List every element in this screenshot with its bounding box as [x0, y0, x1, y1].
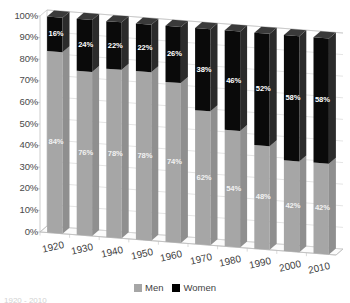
data-label-women-1970: 38% [197, 66, 212, 74]
data-label-women-1950: 22% [137, 44, 152, 52]
legend-swatch-men-icon [134, 284, 142, 292]
legend-item-men[interactable]: Men [134, 283, 163, 293]
bar-1970 [195, 22, 217, 245]
data-label-women-2000: 58% [285, 94, 300, 102]
bar-1980 [225, 24, 247, 247]
legend-swatch-women-icon [172, 284, 180, 292]
bar-2000 [284, 29, 306, 252]
legend-item-women[interactable]: Women [172, 283, 216, 293]
y-axis-tick-20pct: 20% [2, 183, 38, 193]
data-label-women-1930: 24% [78, 41, 93, 49]
y-axis-tick-100pct: 100% [2, 11, 38, 21]
data-label-men-2010: 42% [315, 204, 330, 212]
data-label-women-1990: 52% [256, 85, 271, 93]
y-axis-tick-0pct: 0% [2, 227, 38, 237]
chart-legend: MenWomen [0, 281, 350, 295]
bar-1920 [47, 11, 69, 234]
chart-container: 0%10%20%30%40%50%60%70%80%90%100% 192019… [0, 0, 350, 303]
data-label-men-1990: 48% [256, 193, 271, 201]
y-axis-tick-80pct: 80% [2, 54, 38, 64]
data-label-men-1940: 78% [108, 150, 123, 158]
legend-label: Men [145, 283, 163, 293]
y-axis-tick-30pct: 30% [2, 162, 38, 172]
data-label-men-1930: 76% [78, 149, 93, 157]
data-label-men-1980: 54% [226, 185, 241, 193]
data-label-men-1950: 78% [137, 152, 152, 160]
y-axis-tick-50pct: 50% [2, 119, 38, 129]
data-label-men-1960: 74% [167, 158, 182, 166]
bar-1990 [254, 27, 276, 250]
data-label-women-2010: 58% [315, 96, 330, 104]
y-axis: 0%10%20%30%40%50%60%70%80%90%100% [0, 0, 38, 303]
bar-2010 [314, 31, 336, 254]
data-label-men-1970: 62% [197, 174, 212, 182]
data-label-women-1940: 22% [108, 42, 123, 50]
y-axis-tick-90pct: 90% [2, 32, 38, 42]
legend-label: Women [183, 283, 216, 293]
data-label-women-1960: 26% [167, 50, 182, 58]
data-label-men-1920: 84% [49, 138, 64, 146]
y-axis-tick-70pct: 70% [2, 75, 38, 85]
y-axis-tick-60pct: 60% [2, 97, 38, 107]
data-label-men-2000: 42% [285, 202, 300, 210]
chart-caption: 1920 - 2010 [4, 296, 348, 303]
y-axis-tick-10pct: 10% [2, 205, 38, 215]
data-label-women-1980: 46% [226, 77, 241, 85]
y-axis-tick-40pct: 40% [2, 140, 38, 150]
data-label-women-1920: 16% [49, 30, 64, 38]
